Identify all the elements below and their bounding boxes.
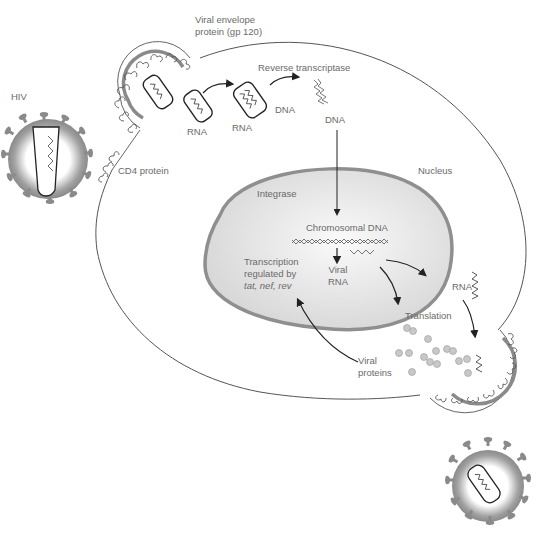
label-dna-hybrid: DNA xyxy=(275,104,295,116)
rna-dna-capsule xyxy=(231,80,269,120)
label-rna-cytoplasm: RNA xyxy=(452,281,472,293)
arrow-rna-to-bud xyxy=(463,300,475,336)
label-reverse-transcriptase: Reverse transcriptase xyxy=(258,62,350,74)
label-chromosomal-dna: Chromosomal DNA xyxy=(306,222,388,234)
arrow-reverse-transcribe xyxy=(270,77,298,85)
hiv-virion-left xyxy=(1,112,93,204)
label-viral-rna-1: Viral xyxy=(326,264,350,276)
label-viral-proteins-2: proteins xyxy=(358,367,392,379)
label-translation: Translation xyxy=(405,310,452,322)
label-hiv: HIV xyxy=(11,91,27,103)
label-cd4-protein: CD4 protein xyxy=(118,165,169,177)
label-integrase: Integrase xyxy=(257,188,297,200)
label-dna: DNA xyxy=(325,114,345,126)
label-transcription-3: tat, nef, rev xyxy=(244,280,292,292)
label-nucleus: Nucleus xyxy=(418,165,452,177)
label-rna-1: RNA xyxy=(187,126,207,138)
label-rna-2: RNA xyxy=(232,122,252,134)
label-viral-rna-2: RNA xyxy=(324,276,352,288)
label-viral-envelope-2: protein (gp 120) xyxy=(195,26,262,38)
label-viral-envelope-1: Viral envelope xyxy=(195,14,255,26)
viral-protein-particles xyxy=(396,325,472,377)
entry-vesicle xyxy=(115,42,190,133)
budding-vesicle xyxy=(430,330,517,413)
arrow-uncoat xyxy=(203,84,232,93)
rna-capsule-1 xyxy=(181,88,214,125)
cytoplasmic-rna xyxy=(472,272,478,299)
label-viral-proteins-1: Viral xyxy=(358,355,377,367)
label-transcription-2: regulated by xyxy=(244,268,296,280)
hiv-virion-released xyxy=(445,437,531,525)
label-transcription-1: Transcription xyxy=(244,256,299,268)
nucleus xyxy=(205,169,452,330)
dna-helix xyxy=(314,79,328,104)
